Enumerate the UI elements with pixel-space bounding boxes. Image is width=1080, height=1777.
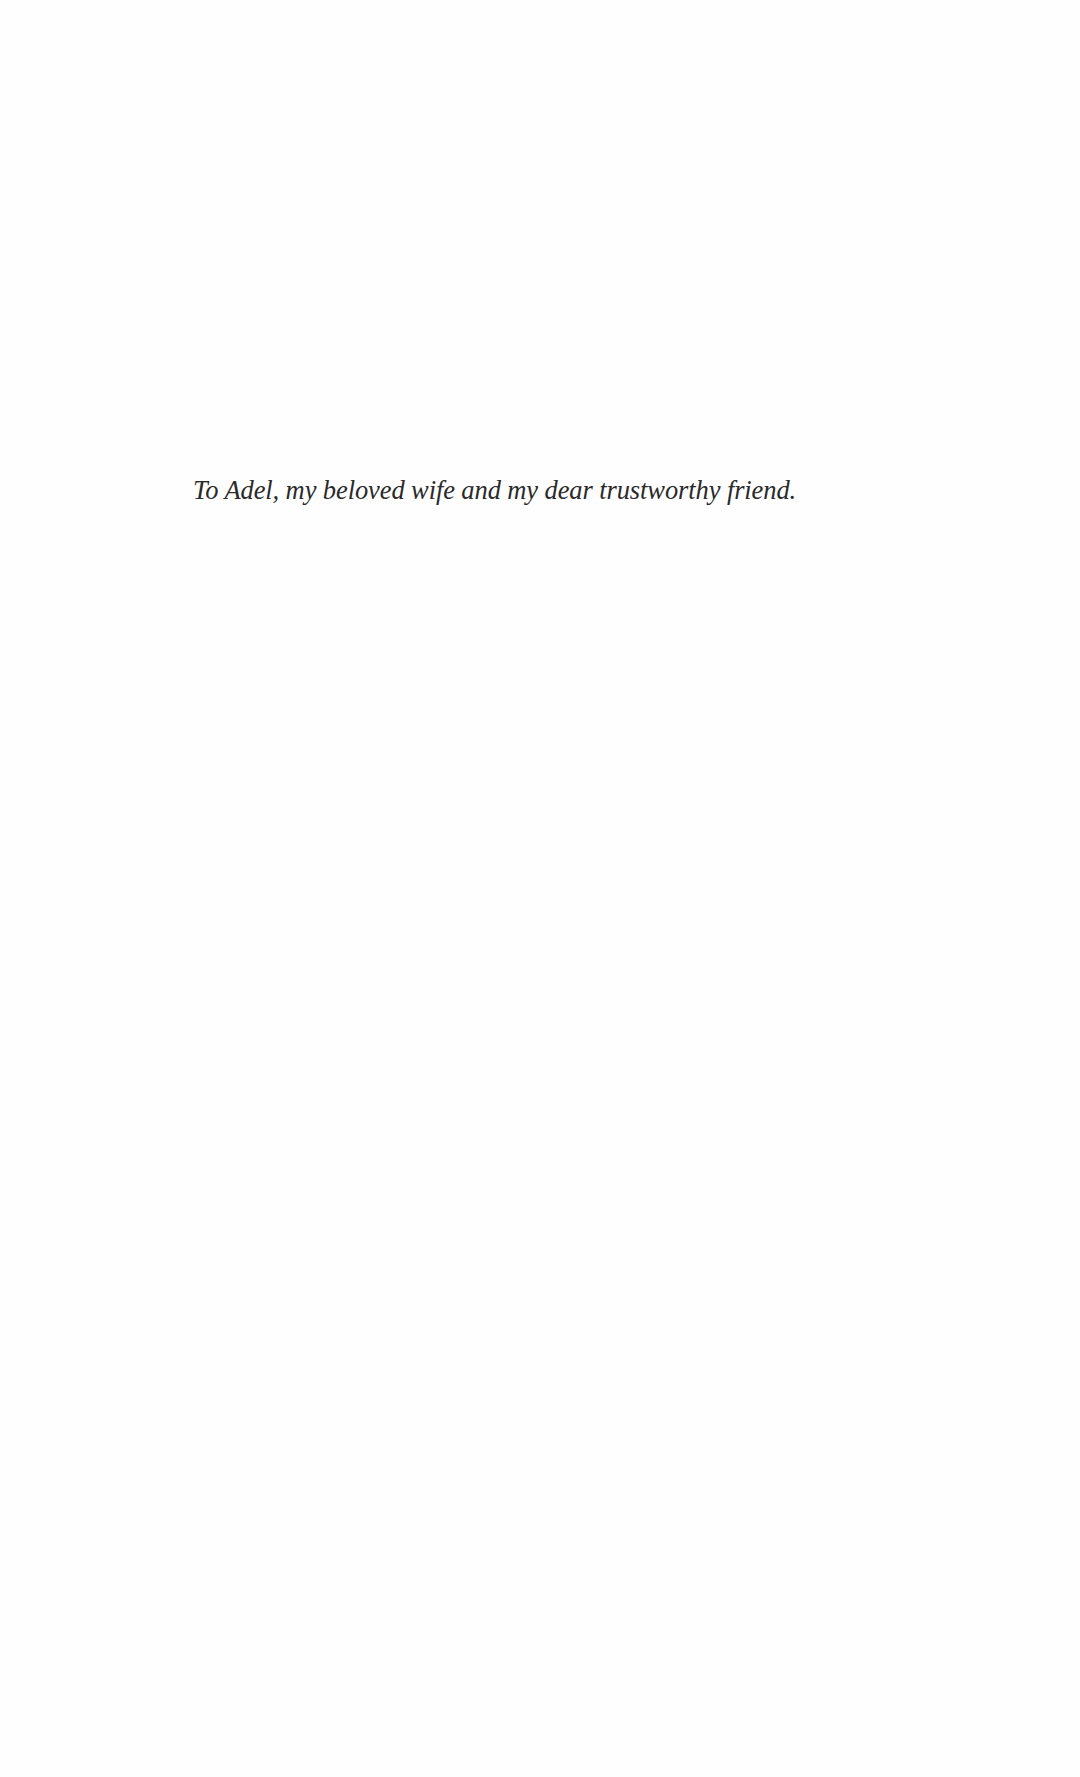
dedication-page: To Adel, my beloved wife and my dear tru…	[0, 0, 1080, 1777]
dedication-text: To Adel, my beloved wife and my dear tru…	[193, 472, 833, 508]
